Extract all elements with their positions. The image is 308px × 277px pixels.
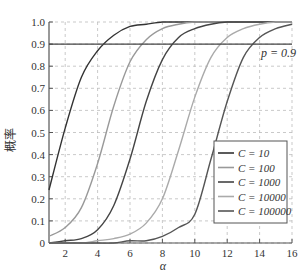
legend-label: C = 100000 bbox=[238, 205, 292, 217]
y-axis-label: 概率 bbox=[3, 128, 18, 152]
y-tick-label: 0.1 bbox=[31, 215, 45, 227]
probability-chart: p = 0.9 246810121416 00.10.20.30.40.50.6… bbox=[0, 0, 308, 277]
y-tick-label: 0.7 bbox=[31, 82, 45, 94]
x-tick-label: 4 bbox=[95, 247, 101, 259]
reference-label: p = 0.9 bbox=[260, 46, 296, 60]
x-tick-label: 14 bbox=[254, 247, 266, 259]
y-tick-label: 0.6 bbox=[31, 104, 45, 116]
y-tick-label: 0 bbox=[40, 237, 46, 249]
x-tick-label: 16 bbox=[287, 247, 299, 259]
y-tick-label: 1.0 bbox=[31, 16, 45, 28]
x-axis-label: α bbox=[160, 259, 167, 273]
y-tick-label: 0.5 bbox=[31, 127, 45, 139]
x-tick-label: 6 bbox=[127, 247, 133, 259]
legend-label: C = 10 bbox=[238, 147, 270, 159]
legend-label: C = 10000 bbox=[238, 191, 286, 203]
y-tick-labels: 00.10.20.30.40.50.60.70.80.91.0 bbox=[31, 16, 45, 249]
y-tick-label: 0.8 bbox=[31, 60, 45, 72]
legend-label: C = 1000 bbox=[238, 176, 281, 188]
x-tick-label: 12 bbox=[222, 247, 233, 259]
legend-label: C = 100 bbox=[238, 162, 275, 174]
y-tick-label: 0.4 bbox=[31, 149, 45, 161]
legend: C = 10C = 100C = 1000C = 10000C = 100000 bbox=[214, 141, 292, 223]
x-tick-label: 10 bbox=[189, 247, 201, 259]
y-tick-label: 0.2 bbox=[31, 193, 45, 205]
x-tick-label: 8 bbox=[160, 247, 166, 259]
x-tick-label: 2 bbox=[62, 247, 68, 259]
y-tick-label: 0.3 bbox=[31, 171, 45, 183]
y-tick-label: 0.9 bbox=[31, 38, 45, 50]
x-tick-labels: 246810121416 bbox=[62, 247, 298, 259]
